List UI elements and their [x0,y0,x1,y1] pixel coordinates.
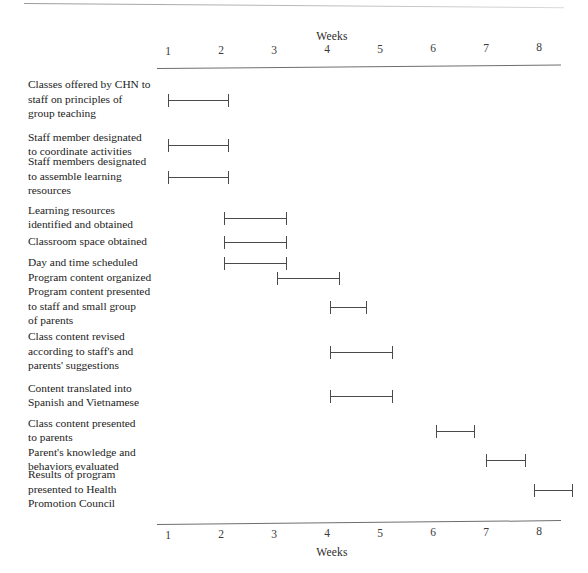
tick-label-week-1: 1 [159,529,177,541]
tick-label-week-2: 2 [212,44,230,56]
task-label-line: Program content organized [28,270,154,284]
task-label: Content translated intoSpanish and Vietn… [28,381,154,410]
task-label-line: Classroom space obtained [28,234,154,248]
gantt-bar [224,242,288,243]
gantt-bar [534,490,574,491]
task-label-line: Class content revised [28,329,154,343]
top-axis-title: Weeks [272,30,392,42]
tick-label-week-4: 4 [318,43,336,55]
gantt-bar [330,396,394,397]
tick-label-week-7: 7 [477,42,495,54]
tick-label-week-5: 5 [371,527,389,539]
task-label-line: to parents [28,430,154,444]
task-label-line: parents' suggestions [28,358,154,372]
task-label: Class content revisedaccording to staff'… [28,329,154,372]
bottom-axis-line [157,520,561,525]
gantt-bar [486,460,526,461]
task-label: Classroom space obtained [28,234,154,248]
bottom-axis-title: Weeks [272,546,392,558]
task-label-line: group teaching [28,106,154,120]
task-label: Classes offered by CHN tostaff on princi… [28,77,154,120]
task-label-line: staff on principles of [28,92,154,106]
task-label: Class content presentedto parents [28,416,154,445]
task-label-line: Results of program [28,467,154,481]
tick-label-week-5: 5 [371,43,389,55]
gantt-bar [436,431,476,432]
gantt-chart: Weeks 12345678 Classes offered by CHN to… [0,0,588,573]
tick-label-week-8: 8 [530,41,548,53]
task-label-line: identified and obtained [28,217,154,231]
tick-label-week-1: 1 [159,45,177,57]
tick-label-week-6: 6 [424,526,442,538]
tick-label-week-3: 3 [265,528,283,540]
tick-label-week-8: 8 [530,525,548,537]
tick-label-week-4: 4 [318,527,336,539]
task-label-line: Class content presented [28,416,154,430]
task-label-line: Day and time scheduled [28,255,154,269]
gantt-bar [277,278,341,279]
task-label-line: Content translated into [28,381,154,395]
task-label-line: Staff member designated [28,130,154,144]
task-label-line: Classes offered by CHN to [28,77,154,91]
task-label: Program content presentedto staff and sm… [28,284,154,327]
tick-label-week-3: 3 [265,44,283,56]
gantt-bar [168,177,229,178]
tick-label-week-7: 7 [477,526,495,538]
gantt-bar [330,352,394,353]
task-label-line: Staff members designated [28,154,154,168]
task-label-line: Program content presented [28,284,154,298]
task-label-line: Learning resources [28,203,154,217]
task-label: Results of programpresented to HealthPro… [28,467,154,510]
tick-label-week-6: 6 [424,42,442,54]
task-label-line: of parents [28,313,154,327]
task-label-line: to staff and small group [28,299,154,313]
gantt-bar [330,307,367,308]
gantt-bar [168,145,229,146]
gantt-bar [168,100,229,101]
task-label: Day and time scheduled [28,255,154,269]
gantt-bar [224,218,288,219]
task-label-line: according to staff's and [28,344,154,358]
tick-label-week-2: 2 [212,528,230,540]
task-label: Learning resourcesidentified and obtaine… [28,203,154,232]
task-label-line: Promotion Council [28,496,154,510]
task-label-line: Parent's knowledge and [28,445,154,459]
task-label: Staff members designatedto assemble lear… [28,154,154,197]
task-label-line: presented to Health [28,482,154,496]
task-label-line: resources [28,183,154,197]
top-axis-line [157,64,561,69]
gantt-bar [224,263,288,264]
page-edge-artifact [24,3,564,8]
task-label-line: to assemble learning [28,169,154,183]
task-label: Program content organized [28,270,154,284]
task-label-line: Spanish and Vietnamese [28,395,154,409]
